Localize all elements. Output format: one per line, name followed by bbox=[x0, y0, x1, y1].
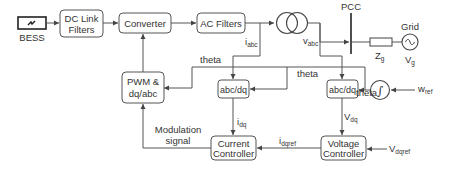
bess-block: BESS bbox=[18, 17, 46, 43]
converter-block: Converter bbox=[119, 13, 171, 33]
pwm-label-1: PWM & bbox=[127, 76, 160, 87]
dc-link-filters-block: DC Link Filters bbox=[60, 10, 103, 37]
grid-label: Grid bbox=[401, 21, 419, 32]
iabc-label: iabc bbox=[245, 36, 258, 48]
pwm-label-2: dq/abc bbox=[129, 88, 158, 99]
current-controller-label-2: Controller bbox=[213, 148, 254, 159]
svg-text:∫: ∫ bbox=[377, 84, 384, 98]
current-controller-label-1: Current bbox=[218, 138, 250, 149]
vabc-measurement-wire bbox=[320, 23, 342, 79]
dc-link-label-2: Filters bbox=[69, 24, 95, 35]
abcdq-current-block: abc/dq bbox=[218, 80, 249, 98]
grid-source-icon bbox=[402, 34, 418, 50]
theta-label-3: theta bbox=[356, 87, 378, 98]
ac-filters-block: AC Filters bbox=[197, 13, 245, 33]
theta-to-abcdq-current-wire bbox=[250, 67, 287, 89]
abcdq-voltage-label: abc/dq bbox=[329, 85, 356, 95]
idqref-label: idqref bbox=[279, 135, 296, 148]
abcdq-voltage-block: abc/dq bbox=[327, 80, 358, 98]
voltage-controller-block: Voltage Controller bbox=[321, 136, 366, 160]
converter-label: Converter bbox=[124, 18, 166, 29]
ac-filters-label: AC Filters bbox=[200, 18, 242, 29]
zg-label: Zg bbox=[375, 50, 385, 63]
dc-link-label-1: DC Link bbox=[65, 13, 99, 24]
zg-impedance-icon bbox=[370, 38, 392, 46]
modulation-label-2: signal bbox=[166, 135, 191, 146]
pwm-dqabc-block: PWM & dq/abc bbox=[122, 72, 164, 103]
current-controller-block: Current Controller bbox=[211, 136, 256, 160]
voltage-controller-label-1: Voltage bbox=[328, 138, 360, 149]
transformer-icon bbox=[277, 13, 308, 34]
vg-label: Vg bbox=[405, 54, 415, 67]
vdq-label: Vdq bbox=[344, 111, 358, 124]
voltage-controller-label-2: Controller bbox=[323, 148, 364, 159]
wref-label: wref bbox=[417, 83, 433, 95]
bess-label: BESS bbox=[19, 32, 44, 43]
abcdq-current-label: abc/dq bbox=[220, 85, 247, 95]
modulation-label-1: Modulation bbox=[155, 124, 201, 135]
vabc-label: vabc bbox=[303, 35, 319, 47]
theta-label-1: theta bbox=[200, 54, 222, 65]
pcc-label: PCC bbox=[341, 1, 361, 12]
vdqref-label: Vdqref bbox=[389, 143, 410, 156]
idq-label: idq bbox=[237, 116, 247, 129]
control-block-diagram: BESS DC Link Filters Converter AC Filter… bbox=[0, 0, 460, 169]
theta-label-2: theta bbox=[297, 68, 319, 79]
